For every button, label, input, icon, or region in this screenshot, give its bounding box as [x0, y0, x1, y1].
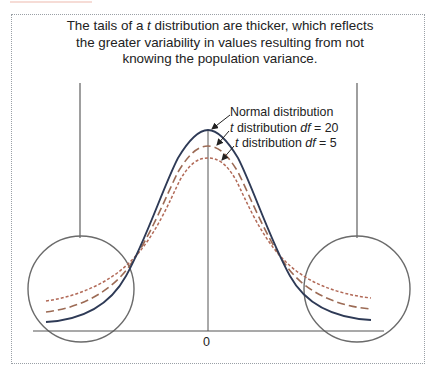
- label-italic-df: df: [305, 136, 315, 150]
- label-text: distribution: [238, 136, 305, 150]
- x-tick-zero: 0: [203, 335, 210, 349]
- right-tail-magnifier-circle: [304, 236, 410, 342]
- distribution-plot: [0, 0, 440, 378]
- label-text: distribution: [233, 121, 300, 135]
- label-text: Normal distribution: [230, 105, 333, 119]
- t-df20-label: t distribution df = 20: [230, 121, 339, 135]
- normal-arrow: [212, 115, 230, 129]
- normal-label: Normal distribution: [230, 105, 333, 119]
- label-italic-df: df: [300, 121, 310, 135]
- label-text: = 5: [316, 136, 337, 150]
- t-df5-label: t distribution df = 5: [235, 136, 337, 150]
- label-text: = 20: [311, 121, 339, 135]
